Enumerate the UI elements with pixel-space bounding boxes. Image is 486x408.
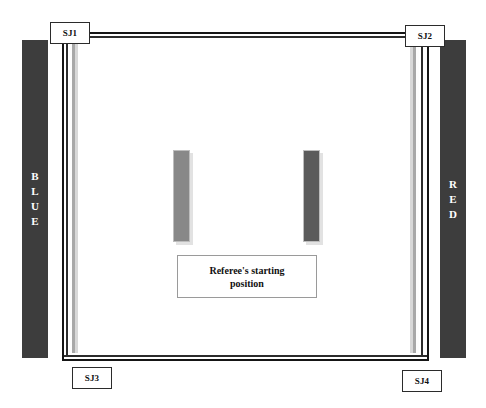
mat-border-right-inner bbox=[421, 36, 423, 357]
judge-label-sj4: SJ4 bbox=[415, 376, 430, 386]
red-letter-2: D bbox=[449, 207, 457, 222]
blue-letter-2: U bbox=[31, 199, 39, 214]
red-letter-0: R bbox=[449, 177, 457, 192]
competitor-left-start-position bbox=[173, 150, 193, 245]
judge-label-sj2: SJ2 bbox=[418, 31, 433, 41]
red-letter-1: E bbox=[449, 192, 456, 207]
mat-diagram: B L U E R E D Referee's starting bbox=[0, 0, 486, 408]
blue-letter-0: B bbox=[31, 169, 38, 184]
judge-box-sj3: SJ3 bbox=[72, 367, 112, 389]
referee-starting-position-box: Referee's starting position bbox=[177, 255, 317, 298]
blue-corner-bar: B L U E bbox=[22, 40, 48, 358]
mat-border-right-outer bbox=[427, 32, 429, 361]
competitor-right-start-position bbox=[303, 150, 323, 245]
competitor-left-body bbox=[173, 150, 190, 242]
mat-stripe-left-light bbox=[75, 40, 78, 353]
judge-box-sj1: SJ1 bbox=[50, 22, 90, 44]
blue-letter-3: E bbox=[31, 214, 38, 229]
mat-surface bbox=[62, 32, 429, 362]
judge-box-sj2: SJ2 bbox=[405, 25, 445, 47]
mat-border-bottom-inner bbox=[62, 355, 429, 357]
judge-label-sj3: SJ3 bbox=[85, 373, 100, 383]
mat-border-top-outer bbox=[62, 32, 429, 34]
mat-border-left-inner bbox=[66, 36, 68, 357]
judge-label-sj1: SJ1 bbox=[63, 28, 78, 38]
judge-box-sj4: SJ4 bbox=[402, 370, 442, 392]
referee-label-line1: Referee's starting bbox=[209, 264, 284, 277]
mat-border-top-inner bbox=[62, 36, 429, 38]
mat-border-bottom-outer bbox=[62, 359, 429, 361]
mat-stripe-right-white bbox=[416, 40, 419, 353]
competitor-right-body bbox=[303, 150, 320, 242]
referee-label-line2: position bbox=[209, 277, 284, 290]
red-corner-bar: R E D bbox=[440, 40, 466, 358]
blue-letter-1: L bbox=[31, 184, 38, 199]
mat-border-left-outer bbox=[62, 32, 64, 361]
